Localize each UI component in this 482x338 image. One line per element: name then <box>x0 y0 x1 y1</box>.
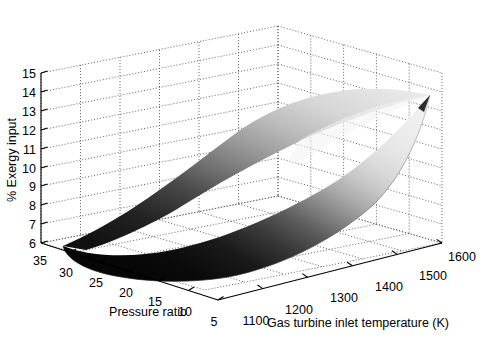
y-tick-label: 1100 <box>243 314 270 328</box>
surface-mesh <box>63 89 430 281</box>
x-tick-label: 20 <box>119 286 133 300</box>
x-tick-label: 30 <box>59 266 73 280</box>
z-tick-label: 15 <box>22 67 36 81</box>
x-tick-label: 25 <box>89 276 103 290</box>
z-tick-label: 6 <box>29 237 36 251</box>
z-tick-labels: 15 14 13 12 11 10 9 8 7 6 <box>22 67 36 251</box>
y-tick-label: 1600 <box>448 250 476 264</box>
z-tick-label: 9 <box>29 180 36 194</box>
z-tick-label: 12 <box>22 124 36 138</box>
z-axis-title: % Exergy input <box>5 117 19 202</box>
z-tick-label: 10 <box>22 162 36 176</box>
z-tick-label: 11 <box>23 143 36 157</box>
y-axis-title: Gas turbine inlet temperature (K) <box>267 316 449 330</box>
surface-plot: 15 14 13 12 11 10 9 8 7 6 35 30 25 20 15… <box>0 0 482 338</box>
x-tick-label: 5 <box>211 315 218 329</box>
z-tick-label: 13 <box>22 105 36 119</box>
x-tick-label: 35 <box>33 254 47 268</box>
y-tick-label: 1300 <box>330 291 358 305</box>
z-tick-label: 8 <box>29 199 36 213</box>
y-tick-label: 1400 <box>375 280 403 294</box>
x-axis-title: Pressure ratio <box>109 305 187 319</box>
z-tick-marks <box>41 71 48 243</box>
z-tick-label: 14 <box>22 86 36 100</box>
y-tick-label: 1200 <box>285 303 313 317</box>
figure-canvas: 15 14 13 12 11 10 9 8 7 6 35 30 25 20 15… <box>0 0 482 338</box>
surface-lower-face <box>63 95 430 281</box>
z-tick-label: 7 <box>29 218 36 232</box>
y-tick-label: 1500 <box>419 269 447 283</box>
